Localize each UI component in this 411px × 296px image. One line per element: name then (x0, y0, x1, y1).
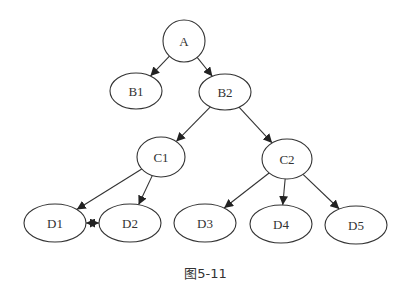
node-label: D4 (273, 217, 289, 232)
node-label: C1 (153, 150, 168, 165)
node-C1: C1 (137, 137, 185, 177)
edge-C1-D1 (77, 169, 142, 209)
edge-A-B1 (150, 56, 169, 76)
node-label: D2 (122, 216, 138, 231)
node-label: B1 (128, 84, 143, 99)
arrow-icon (239, 107, 272, 143)
arrow-icon (197, 57, 212, 76)
node-B2: B2 (199, 74, 251, 110)
node-D3: D3 (174, 204, 236, 242)
node-A: A (163, 20, 205, 62)
edge-C2-D3 (224, 173, 269, 208)
arrow-icon (283, 179, 285, 205)
arrow-icon (176, 107, 210, 142)
node-label: D1 (47, 216, 63, 231)
edge-C2-D4 (283, 179, 285, 205)
arrow-icon (150, 56, 169, 76)
edge-C1-D2 (139, 176, 153, 205)
node-label: A (179, 34, 189, 49)
node-label: D3 (197, 216, 213, 231)
edge-A-B2 (197, 57, 212, 76)
node-C2: C2 (262, 139, 312, 179)
edge-C2-D5 (303, 174, 339, 209)
node-D5: D5 (325, 206, 387, 244)
graph-canvas: AB1B2C1C2D1D2D3D4D5 (0, 0, 411, 296)
arrow-icon (224, 173, 269, 208)
node-B1: B1 (110, 73, 162, 109)
arrow-icon (77, 169, 142, 209)
arrow-icon (303, 174, 339, 209)
edge-B2-C2 (239, 107, 272, 143)
node-label: C2 (279, 152, 294, 167)
node-label: D5 (348, 218, 364, 233)
node-D2: D2 (99, 204, 161, 242)
node-D4: D4 (250, 205, 312, 243)
edge-B2-C1 (176, 107, 210, 142)
figure-caption: 图5-11 (0, 263, 411, 282)
arrow-icon (139, 176, 153, 205)
node-D1: D1 (24, 204, 86, 242)
node-label: B2 (217, 85, 232, 100)
